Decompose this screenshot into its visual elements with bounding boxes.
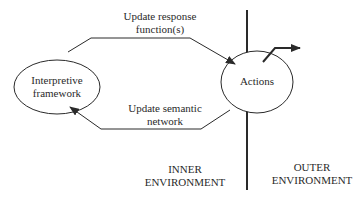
update-response-label: Update response function(s) [100, 10, 220, 36]
update-semantic-label: Update semantic network [100, 102, 230, 128]
actions-label: Actions [222, 75, 292, 88]
update-response-arrow [68, 38, 235, 64]
interpretive-framework-label: Interpretive framework [17, 74, 97, 100]
outer-environment-label: OUTER ENVIRONMENT [262, 161, 362, 187]
inner-environment-label: INNER ENVIRONMENT [135, 163, 235, 189]
